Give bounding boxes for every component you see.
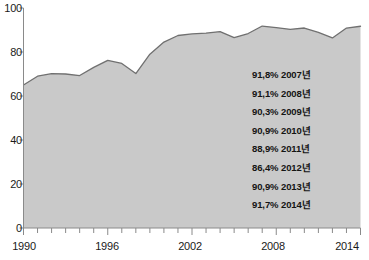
y-tick-label-100: 100 xyxy=(0,2,22,14)
legend-year: 2014년 xyxy=(281,199,311,210)
legend-year: 2012년 xyxy=(281,162,311,173)
legend-year: 2010년 xyxy=(281,125,311,136)
x-tick-label-2002: 2002 xyxy=(170,240,210,252)
legend-item: 91,1% 2008년 xyxy=(252,85,352,104)
legend-percent: 91,7% xyxy=(252,199,278,210)
legend-year: 2008년 xyxy=(281,88,311,99)
legend-year: 2011년 xyxy=(281,143,310,154)
legend-percent: 88,9% xyxy=(252,143,278,154)
legend-year: 2007년 xyxy=(281,69,311,80)
area-chart: 100 80 60 40 20 0 1990 1996 2002 2008 20… xyxy=(0,0,369,260)
legend-item: 86,4% 2012년 xyxy=(252,159,352,178)
legend-year: 2013년 xyxy=(281,181,311,192)
x-tick-label-2008: 2008 xyxy=(253,240,293,252)
legend-percent: 90,3% xyxy=(252,106,278,117)
legend-item: 90,9% 2010년 xyxy=(252,122,352,141)
legend-year: 2009년 xyxy=(281,106,311,117)
legend-item: 91,7% 2014년 xyxy=(252,196,352,215)
y-tick-label-60: 60 xyxy=(0,90,22,102)
chart-annotation-legend: 91,8% 2007년 91,1% 2008년 90,3% 2009년 90,9… xyxy=(252,66,352,215)
legend-item: 91,8% 2007년 xyxy=(252,66,352,85)
x-tick-label-1990: 1990 xyxy=(4,240,44,252)
legend-percent: 90,9% xyxy=(252,181,278,192)
legend-item: 88,9% 2011년 xyxy=(252,140,352,159)
legend-item: 90,9% 2013년 xyxy=(252,178,352,197)
y-tick-label-80: 80 xyxy=(0,46,22,58)
legend-item: 90,3% 2009년 xyxy=(252,103,352,122)
y-tick-label-0: 0 xyxy=(0,222,22,234)
legend-percent: 90,9% xyxy=(252,125,278,136)
x-tick-label-1996: 1996 xyxy=(87,240,127,252)
legend-percent: 86,4% xyxy=(252,162,278,173)
x-tick-label-2014: 2014 xyxy=(327,240,367,252)
y-tick-label-40: 40 xyxy=(0,134,22,146)
y-tick-label-20: 20 xyxy=(0,178,22,190)
legend-percent: 91,1% xyxy=(252,88,278,99)
legend-percent: 91,8% xyxy=(252,69,278,80)
